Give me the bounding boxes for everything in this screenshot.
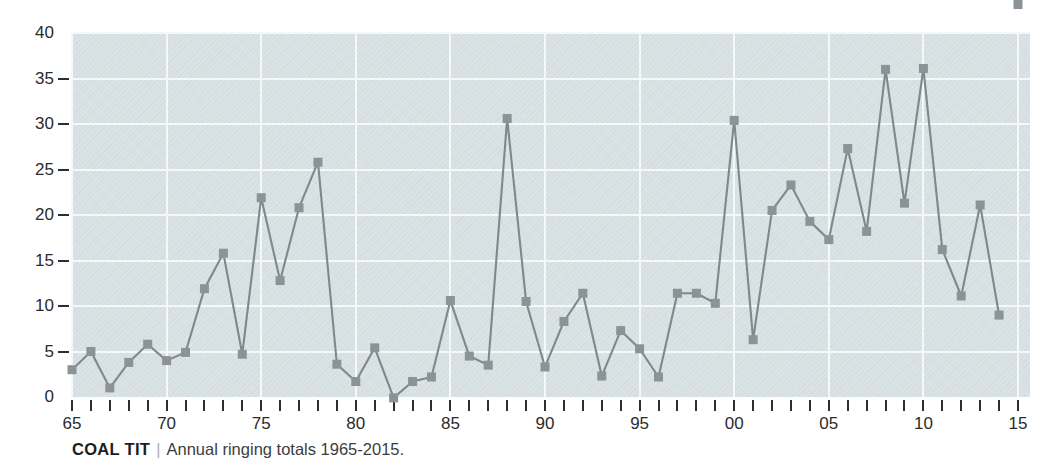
x-axis-tick	[355, 400, 357, 411]
x-axis-tick	[847, 400, 849, 411]
y-axis-tick	[58, 214, 69, 216]
x-axis-tick	[430, 400, 432, 411]
y-axis-label: 0	[14, 387, 54, 407]
y-axis-tick	[58, 169, 69, 171]
caption: COAL TIT|Annual ringing totals 1965-2015…	[72, 440, 404, 459]
x-axis-tick	[336, 400, 338, 411]
x-axis-tick	[90, 400, 92, 411]
gridline-horizontal	[72, 260, 1030, 262]
x-axis-label: 15	[996, 414, 1040, 434]
y-axis-label: 30	[14, 114, 54, 134]
x-axis-tick	[695, 400, 697, 411]
x-axis-tick	[771, 400, 773, 411]
y-axis-tick	[58, 305, 69, 307]
gridline-vertical	[922, 33, 924, 397]
gridline-horizontal	[72, 123, 1030, 125]
chart-page: 0510152025303540 6570758085909500051015 …	[0, 0, 1063, 474]
y-axis-tick	[58, 78, 69, 80]
x-axis-tick	[866, 400, 868, 411]
caption-species: COAL TIT	[72, 440, 150, 458]
x-axis-tick	[109, 400, 111, 411]
x-axis-label: 95	[618, 414, 662, 434]
x-axis-label: 65	[50, 414, 94, 434]
x-axis-tick	[412, 400, 414, 411]
y-axis-label: 5	[14, 342, 54, 362]
gridline-horizontal	[72, 32, 1030, 34]
x-axis-tick	[752, 400, 754, 411]
gridline-vertical	[733, 33, 735, 397]
x-axis-tick	[544, 400, 546, 411]
x-axis-label: 90	[523, 414, 567, 434]
x-axis-tick	[71, 400, 73, 411]
x-axis-tick	[714, 400, 716, 411]
x-axis-tick	[941, 400, 943, 411]
gridline-horizontal	[72, 78, 1030, 80]
clipped-header-text	[120, 0, 540, 5]
y-axis-label: 35	[14, 69, 54, 89]
x-axis-tick	[147, 400, 149, 411]
x-axis-tick	[809, 400, 811, 411]
x-axis-tick	[260, 400, 262, 411]
x-axis-tick	[185, 400, 187, 411]
x-axis-tick	[903, 400, 905, 411]
caption-separator: |	[150, 440, 166, 458]
gridline-vertical	[544, 33, 546, 397]
x-axis-tick	[166, 400, 168, 411]
x-axis-tick	[203, 400, 205, 411]
y-axis-label: 40	[14, 23, 54, 43]
gridline-vertical	[355, 33, 357, 397]
x-axis-label: 05	[807, 414, 851, 434]
gridline-horizontal	[72, 214, 1030, 216]
y-axis-label: 10	[14, 296, 54, 316]
x-axis-tick	[1017, 400, 1019, 411]
x-axis-tick	[658, 400, 660, 411]
gridline-vertical	[449, 33, 451, 397]
gridline-horizontal	[72, 351, 1030, 353]
caption-description: Annual ringing totals 1965-2015.	[166, 440, 404, 458]
x-axis-tick	[601, 400, 603, 411]
x-axis-tick	[885, 400, 887, 411]
plot-area	[72, 33, 1030, 397]
x-axis-label: 80	[334, 414, 378, 434]
data-point-marker	[1014, 0, 1023, 9]
x-axis-tick	[639, 400, 641, 411]
y-axis-tick	[58, 351, 69, 353]
x-axis-tick	[393, 400, 395, 411]
x-axis-label: 75	[239, 414, 283, 434]
y-axis-label: 15	[14, 251, 54, 271]
gridline-vertical	[1017, 33, 1019, 397]
x-axis-label: 10	[901, 414, 945, 434]
x-axis-label: 00	[712, 414, 756, 434]
gridline-vertical	[260, 33, 262, 397]
y-axis-label: 25	[14, 160, 54, 180]
gridline-horizontal	[72, 169, 1030, 171]
x-axis-tick	[733, 400, 735, 411]
x-axis-tick	[506, 400, 508, 411]
x-axis-label: 85	[428, 414, 472, 434]
x-axis-tick	[790, 400, 792, 411]
x-axis-tick	[998, 400, 1000, 411]
gridline-vertical	[71, 33, 73, 397]
x-axis-tick	[449, 400, 451, 411]
x-axis-tick	[676, 400, 678, 411]
x-axis-tick	[468, 400, 470, 411]
x-axis-tick	[922, 400, 924, 411]
y-axis-label: 20	[14, 205, 54, 225]
x-axis-tick	[979, 400, 981, 411]
y-axis-tick	[58, 123, 69, 125]
x-axis-label: 70	[145, 414, 189, 434]
x-axis-tick	[620, 400, 622, 411]
x-axis-tick	[317, 400, 319, 411]
gridline-vertical	[828, 33, 830, 397]
gridline-vertical	[166, 33, 168, 397]
x-axis-tick	[298, 400, 300, 411]
gridline-horizontal	[72, 305, 1030, 307]
x-axis-tick	[582, 400, 584, 411]
x-axis-tick	[563, 400, 565, 411]
x-axis-tick	[487, 400, 489, 411]
x-axis-tick	[828, 400, 830, 411]
x-axis-tick	[960, 400, 962, 411]
x-axis-tick	[222, 400, 224, 411]
y-axis-tick	[58, 260, 69, 262]
x-axis-tick	[241, 400, 243, 411]
